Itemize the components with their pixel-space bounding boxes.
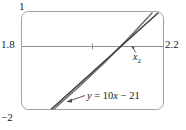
graph-canvas (0, 0, 186, 130)
equation-equals: = (94, 90, 100, 101)
equation-slope: 10 (103, 90, 114, 101)
y-min-label: −2 (1, 112, 13, 123)
equation-x: x (113, 90, 118, 101)
root-label-subscript: 2 (137, 57, 141, 65)
equation-minus: − (121, 90, 127, 101)
equation-y: y (87, 90, 92, 101)
newtons-method-figure: 1 1.8 2.2 −2 x2 y = 10x − 21 (0, 0, 186, 130)
x-min-label: 1.8 (1, 39, 15, 50)
y-max-label: 1 (19, 1, 25, 12)
tangent-equation-label: y = 10x − 21 (87, 91, 140, 102)
equation-intercept: 21 (129, 90, 140, 101)
x-max-label: 2.2 (165, 39, 179, 50)
root-label-x2: x2 (133, 52, 141, 65)
